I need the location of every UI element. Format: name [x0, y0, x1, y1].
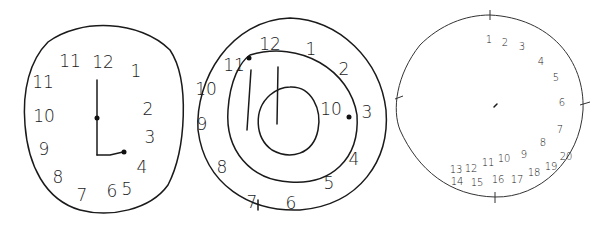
clock-1-number: 11	[59, 51, 81, 71]
clock-3-center-mark	[494, 104, 497, 107]
clock-1-number: 1	[131, 61, 142, 81]
clock-1-numbers: 12123456789101111	[32, 51, 155, 205]
clock-2-outer-ring	[198, 18, 387, 210]
clock-3-number: 15	[471, 177, 484, 188]
clock-3-number: 17	[511, 174, 524, 185]
clock-2-dot-3	[347, 115, 352, 120]
clock-1-number: 2	[143, 99, 154, 119]
clock-2-number: 3	[362, 102, 373, 122]
clock-1-number: 12	[92, 52, 114, 72]
clock-3-number: 16	[492, 174, 505, 185]
clock-drawing-1: 12123456789101111	[0, 0, 200, 227]
clock-2-number: 6	[286, 193, 297, 213]
clock-3-number: 5	[553, 72, 559, 83]
clock-1-number: 5	[122, 179, 133, 199]
clock-2-svg: 12123456789101110	[190, 0, 390, 227]
clock-3-svg: 1234567891011121314151617181920	[390, 0, 611, 227]
clock-1-number: 9	[39, 139, 50, 159]
clock-2-number: 4	[349, 149, 360, 169]
clock-2-number: 7	[247, 192, 258, 212]
clock-1-svg: 12123456789101111	[0, 0, 200, 227]
clock-3-number: 13	[450, 164, 463, 175]
clock-1-number: 3	[145, 127, 156, 147]
clock-1-number: 11	[32, 72, 54, 92]
clock-1-number: 6	[107, 181, 118, 201]
clock-2-dot-11	[247, 56, 252, 61]
clock-2-inner-ring	[258, 87, 319, 155]
clock-3-number: 3	[519, 41, 525, 52]
clock-3-numbers: 1234567891011121314151617181920	[450, 34, 573, 188]
clock-3-number: 2	[502, 37, 508, 48]
clock-1-minute-hand	[97, 152, 123, 155]
clock-drawing-2: 12123456789101110	[190, 0, 390, 227]
clock-3-number: 11	[482, 157, 495, 168]
clock-2-number: 8	[217, 157, 228, 177]
clock-3-number: 9	[521, 149, 527, 160]
clock-1-center-dot	[95, 116, 100, 121]
clock-3-number: 4	[538, 56, 544, 67]
clock-3-number: 20	[560, 151, 573, 162]
clock-2-number: 1	[306, 39, 317, 59]
clock-2-numbers: 12123456789101110	[195, 34, 372, 213]
clock-3-number: 8	[540, 137, 546, 148]
clock-3-number: 6	[559, 97, 565, 108]
clock-3-tick-left	[395, 96, 403, 99]
clock-3-number: 12	[465, 163, 478, 174]
clock-2-number: 5	[324, 173, 335, 193]
clock-1-number: 8	[53, 167, 64, 187]
clock-3-number: 18	[528, 167, 541, 178]
clock-2-number: 12	[259, 34, 281, 54]
clock-3-number: 19	[545, 161, 558, 172]
clock-2-number: 10	[320, 99, 342, 119]
clock-3-tick-right	[580, 102, 590, 105]
clock-1-hand-tip	[122, 150, 127, 155]
clock-2-number: 9	[197, 114, 208, 134]
clock-1-number: 4	[137, 157, 148, 177]
clock-2-number: 2	[339, 59, 350, 79]
clock-1-number: 10	[33, 106, 55, 126]
clock-3-number: 10	[498, 153, 511, 164]
clock-3-number: 1	[486, 34, 492, 45]
clock-2-number: 11	[223, 55, 245, 75]
clock-3-number: 7	[557, 124, 563, 135]
clock-1-number: 7	[77, 185, 88, 205]
clock-3-number: 14	[451, 176, 464, 187]
clock-2-center-hand	[277, 67, 278, 124]
clock-2-left-hand	[247, 70, 251, 130]
clock-drawing-3: 1234567891011121314151617181920	[390, 0, 611, 227]
clock-2-number: 10	[195, 79, 217, 99]
